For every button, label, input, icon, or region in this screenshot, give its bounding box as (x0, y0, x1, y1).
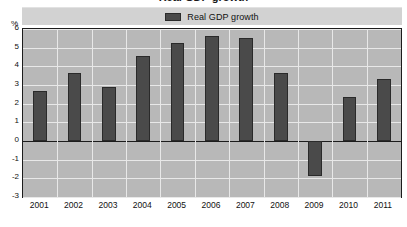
chart-legend: Real GDP growth (22, 7, 402, 25)
y-tick-label-0: 0 (3, 136, 19, 144)
y-tick-label-1: 1 (3, 117, 19, 125)
gridline-x-4 (160, 29, 161, 197)
gridline-x-6 (229, 29, 230, 197)
gridline-x-7 (264, 29, 265, 197)
bar-2004 (136, 56, 150, 141)
x-tick-label-2006: 2006 (202, 200, 221, 210)
gridline-x-1 (57, 29, 58, 197)
legend-swatch-real-gdp-growth (165, 13, 181, 21)
bar-2002 (68, 73, 82, 141)
x-tick-label-2002: 2002 (64, 200, 83, 210)
gridline-y--1 (23, 160, 401, 161)
x-tick-label-2003: 2003 (98, 200, 117, 210)
x-tick-label-2008: 2008 (270, 200, 289, 210)
y-tick-label-4: 4 (3, 61, 19, 69)
bar-2007 (239, 38, 253, 141)
x-tick-label-2011: 2011 (374, 200, 392, 210)
gridline-y-6 (23, 29, 401, 30)
bar-2010 (343, 97, 357, 141)
gridline-x-2 (92, 29, 93, 197)
gdp-growth-chart-figure: Real GDP growth Real GDP growth % 654321… (0, 0, 407, 227)
bar-2011 (377, 79, 391, 141)
bar-2006 (205, 36, 219, 141)
plot-inner (23, 29, 401, 197)
y-tick-label--2: -2 (3, 173, 19, 181)
x-tick-label-2004: 2004 (133, 200, 152, 210)
y-tick-label-6: 6 (3, 24, 19, 32)
bar-2001 (33, 91, 47, 141)
y-axis-tick-labels: 6543210-1-2-3 (0, 28, 19, 198)
x-tick-label-2001: 2001 (30, 200, 49, 210)
y-tick-label-5: 5 (3, 43, 19, 51)
chart-title: Real GDP growth (0, 0, 407, 3)
x-tick-label-2009: 2009 (305, 200, 324, 210)
plot-area (22, 28, 402, 198)
y-tick-label-3: 3 (3, 80, 19, 88)
gridline-x-3 (126, 29, 127, 197)
legend-inner: Real GDP growth (22, 8, 402, 25)
gridline-x-10 (367, 29, 368, 197)
x-tick-label-2007: 2007 (236, 200, 255, 210)
gridline-y--3 (23, 197, 401, 198)
y-tick-label--3: -3 (3, 192, 19, 200)
y-tick-label-2: 2 (3, 99, 19, 107)
x-tick-label-2010: 2010 (339, 200, 358, 210)
y-tick-label--1: -1 (3, 155, 19, 163)
chart-title-strip: Real GDP growth (0, 0, 407, 7)
bar-2005 (171, 43, 185, 141)
bar-2003 (102, 87, 116, 141)
gridline-y--2 (23, 178, 401, 179)
legend-label-real-gdp-growth: Real GDP growth (187, 12, 258, 22)
gridline-x-5 (195, 29, 196, 197)
bar-2008 (274, 73, 288, 141)
zero-axis-line (23, 141, 401, 142)
gridline-x-8 (298, 29, 299, 197)
gridline-x-9 (332, 29, 333, 197)
x-axis-tick-labels: 2001200220032004200520062007200820092010… (22, 200, 402, 216)
x-tick-label-2005: 2005 (167, 200, 186, 210)
bar-2009 (308, 141, 322, 176)
